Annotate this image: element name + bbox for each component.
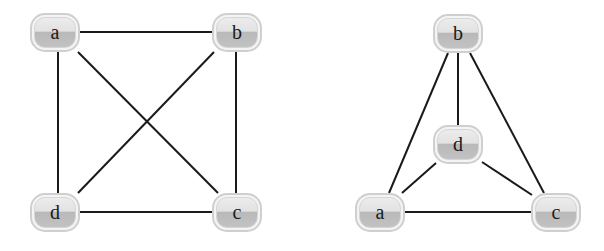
node-left-c: c [212, 193, 262, 232]
diagram-canvas: a b c d b d a c [0, 0, 604, 251]
node-label: c [552, 202, 561, 222]
node-label: d [453, 134, 463, 154]
edge-right-d-a [402, 163, 436, 193]
node-label: c [233, 202, 242, 222]
edge-right-b-c [470, 53, 544, 193]
node-label: b [232, 22, 242, 42]
node-right-b: b [433, 14, 483, 53]
node-label: a [51, 22, 60, 42]
node-label: b [453, 23, 463, 43]
edges-layer [0, 0, 604, 251]
node-label: d [50, 202, 60, 222]
edge-right-d-c [482, 162, 532, 195]
node-right-a: a [355, 193, 405, 232]
node-left-d: d [30, 193, 80, 232]
node-right-c: c [531, 193, 581, 232]
node-label: a [376, 202, 385, 222]
edge-right-b-a [389, 53, 448, 193]
node-left-a: a [30, 13, 80, 52]
node-left-b: b [212, 13, 262, 52]
node-right-d: d [433, 125, 483, 164]
